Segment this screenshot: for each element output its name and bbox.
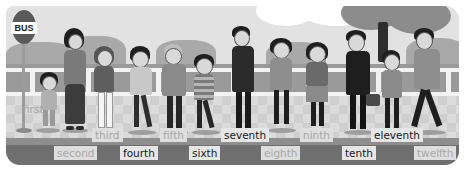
label-twelfth: twelfth: [414, 146, 456, 160]
fence-post: [30, 68, 35, 96]
leg: [197, 100, 202, 128]
shadow: [192, 130, 220, 135]
shadow: [344, 130, 374, 135]
label-sixth: sixth: [189, 146, 220, 160]
fence-post: [446, 68, 451, 96]
torso: [94, 66, 114, 92]
torso: [270, 58, 292, 90]
head: [416, 32, 433, 50]
head: [273, 42, 290, 59]
head: [196, 58, 213, 75]
label-fourth: fourth: [120, 146, 158, 160]
leg: [176, 96, 182, 128]
label-seventh: seventh: [221, 128, 269, 142]
leg: [284, 90, 289, 124]
briefcase-icon: [366, 94, 380, 106]
leg: [106, 92, 113, 128]
torso: [194, 74, 214, 100]
shadow: [36, 128, 60, 133]
head: [97, 50, 113, 67]
label-first: first: [20, 102, 47, 116]
label-third: third: [92, 128, 123, 142]
bus-stop-label: BUS: [11, 22, 37, 34]
label-eighth: eighth: [261, 146, 300, 160]
head: [165, 48, 182, 65]
torso: [232, 46, 254, 92]
leg: [350, 95, 356, 129]
torso: [162, 64, 186, 96]
torso: [306, 62, 328, 86]
leg: [385, 98, 390, 128]
leg: [134, 95, 139, 127]
leg: [167, 96, 173, 128]
shoe: [76, 126, 84, 130]
torso: [64, 50, 86, 86]
torso: [346, 51, 370, 95]
fence-post: [86, 68, 91, 96]
leg: [311, 102, 316, 126]
shadow: [268, 128, 296, 133]
shadow: [128, 130, 156, 135]
leg: [50, 110, 55, 126]
torso: [130, 67, 152, 95]
skirt: [65, 84, 85, 124]
leg: [394, 98, 399, 128]
head: [132, 51, 149, 68]
leg: [319, 102, 324, 126]
bus-stop-base: [16, 128, 32, 133]
label-fifth: fifth: [160, 128, 187, 142]
leg: [98, 92, 105, 128]
skirt: [306, 86, 328, 102]
torso: [382, 70, 402, 98]
head: [42, 76, 57, 91]
fence-post: [376, 68, 381, 96]
label-ninth: ninth: [300, 128, 333, 142]
leg: [245, 92, 251, 128]
leg: [274, 90, 279, 124]
head: [384, 54, 400, 71]
label-eleventh: eleventh: [371, 128, 423, 142]
torso: [414, 49, 440, 89]
head: [68, 34, 83, 50]
shoe: [66, 126, 74, 130]
fence-post: [156, 68, 161, 96]
leg: [236, 92, 242, 128]
label-tenth: tenth: [342, 146, 376, 160]
label-second: second: [54, 146, 97, 160]
head: [309, 46, 326, 63]
head: [234, 30, 250, 47]
bus-stop-pole: [22, 32, 25, 132]
head: [348, 34, 365, 52]
